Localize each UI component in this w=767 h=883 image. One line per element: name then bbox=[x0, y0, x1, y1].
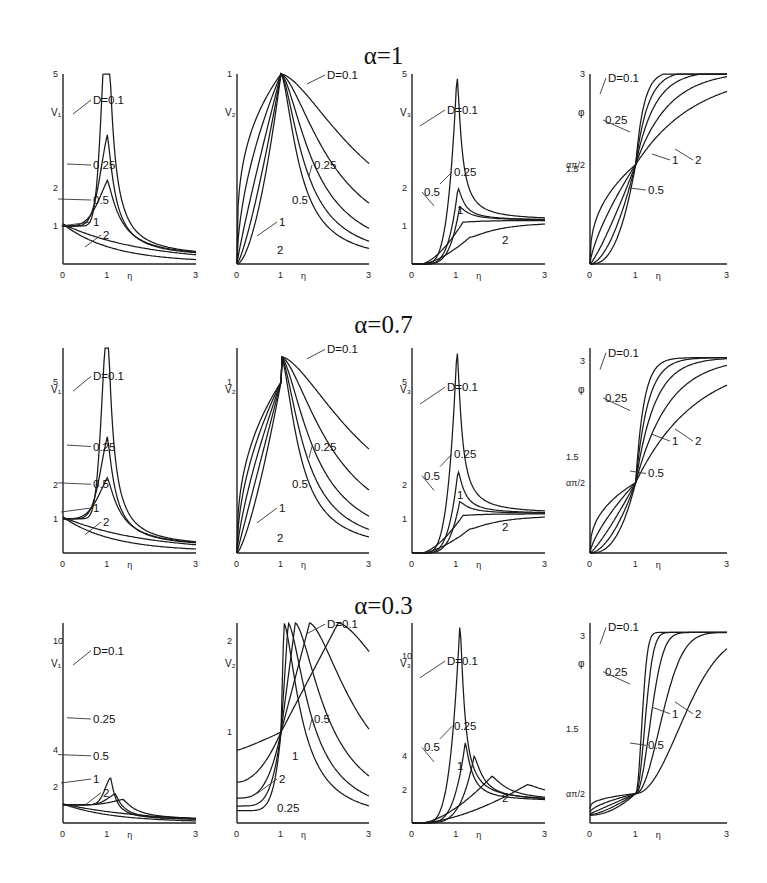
curve-annotation: 2 bbox=[502, 792, 508, 804]
annotation-leader bbox=[420, 387, 445, 404]
annotation-leader bbox=[309, 719, 312, 730]
curve-annotation: 0.5 bbox=[93, 194, 109, 206]
y-tick-label: απ/2 bbox=[566, 478, 585, 488]
curve-D-1 bbox=[590, 632, 727, 812]
x-tick-label: 3 bbox=[366, 270, 371, 280]
x-tick-label: 3 bbox=[542, 270, 547, 280]
curve-annotation: 0.25 bbox=[605, 114, 627, 126]
y-tick-label: 2 bbox=[402, 183, 407, 193]
y-axis-label: V₂ bbox=[225, 384, 236, 395]
curve-D-0.1 bbox=[412, 628, 545, 824]
y-axis-label: V₃ bbox=[400, 658, 411, 669]
y-tick-label: 2 bbox=[53, 183, 58, 193]
curve-D-0.5 bbox=[590, 359, 727, 553]
curve-annotation: 1 bbox=[292, 750, 298, 762]
y-tick-label: 3 bbox=[580, 69, 585, 79]
x-tick-label: 1 bbox=[278, 559, 283, 569]
x-tick-label: 1 bbox=[453, 559, 458, 569]
curve-annotation: 0.5 bbox=[93, 478, 109, 490]
y-tick-label: 3 bbox=[580, 356, 585, 366]
annotation-leader bbox=[440, 726, 452, 738]
curve-D-2 bbox=[412, 224, 545, 264]
curve-D-1 bbox=[590, 77, 727, 264]
x-axis-label: η bbox=[127, 271, 132, 281]
curve-annotation: 0.25 bbox=[605, 392, 627, 404]
annotation-leader bbox=[309, 447, 312, 459]
curve-D-1 bbox=[412, 221, 545, 265]
curve-annotation: D=0.1 bbox=[327, 343, 358, 355]
curve-D-0.1 bbox=[590, 74, 727, 264]
x-tick-label: 0 bbox=[409, 559, 414, 569]
x-tick-label: 3 bbox=[542, 829, 547, 839]
curve-annotation: D=0.1 bbox=[447, 381, 478, 393]
curve-D-0.5 bbox=[63, 180, 196, 252]
x-tick-label: 0 bbox=[60, 829, 65, 839]
curve-annotation: 1 bbox=[672, 154, 678, 166]
chart-panel-r2-c2: 013η1V₂210.50.25D=0.1 bbox=[211, 340, 383, 585]
y-tick-label: 4 bbox=[53, 745, 58, 755]
y-tick-label: 1 bbox=[53, 221, 58, 231]
curve-annotation: 1 bbox=[672, 435, 678, 447]
curve-D-1 bbox=[237, 623, 369, 782]
curve-D-0.1 bbox=[590, 358, 727, 553]
curve-annotation: 0.25 bbox=[93, 713, 115, 725]
x-tick-label: 1 bbox=[104, 559, 109, 569]
chart-panel-r1-c4: 013η1.5απ/23φD=0.10.250.512 bbox=[564, 66, 741, 296]
y-tick-label: 2 bbox=[53, 480, 58, 490]
x-tick-label: 0 bbox=[587, 829, 592, 839]
curve-annotation: 0.25 bbox=[314, 159, 336, 171]
x-tick-label: 1 bbox=[633, 829, 638, 839]
y-axis-label: V₁ bbox=[51, 107, 62, 118]
x-tick-label: 1 bbox=[453, 270, 458, 280]
y-tick-label: 2 bbox=[227, 636, 232, 646]
curve-D-1 bbox=[412, 514, 545, 553]
curve-D-0.25 bbox=[590, 74, 727, 264]
curve-annotation: 2 bbox=[695, 708, 701, 720]
y-tick-label: απ/2 bbox=[566, 789, 585, 799]
curve-D-0.5 bbox=[590, 74, 727, 264]
curve-annotation: 1 bbox=[457, 760, 463, 772]
y-tick-label: 3 bbox=[580, 631, 585, 641]
curve-D-1 bbox=[237, 357, 369, 553]
x-tick-label: 3 bbox=[724, 270, 729, 280]
annotation-leader bbox=[652, 154, 670, 160]
chart-panel-r2-c1: 013η125V₁D=0.10.250.512 bbox=[37, 340, 210, 585]
x-tick-label: 3 bbox=[193, 829, 198, 839]
chart-panel-r2-c3: 013η125V₃D=0.10.250.512 bbox=[386, 340, 559, 585]
x-axis-label: η bbox=[656, 560, 661, 570]
curve-annotation: 2 bbox=[277, 532, 283, 544]
curve-D-2 bbox=[412, 517, 545, 553]
x-tick-label: 0 bbox=[60, 270, 65, 280]
x-tick-label: 1 bbox=[633, 559, 638, 569]
curve-D-2 bbox=[63, 517, 196, 549]
curve-annotation: 2 bbox=[103, 229, 109, 241]
curve-D-0.5 bbox=[237, 74, 369, 264]
y-tick-label: 2 bbox=[402, 785, 407, 795]
x-tick-label: 1 bbox=[278, 270, 283, 280]
x-tick-label: 1 bbox=[104, 829, 109, 839]
y-tick-label: 1.5 bbox=[566, 724, 579, 734]
x-axis-label: η bbox=[127, 830, 132, 840]
x-tick-label: 1 bbox=[633, 270, 638, 280]
curve-annotation: 0.25 bbox=[314, 441, 336, 453]
curve-annotation: 0.25 bbox=[454, 448, 476, 460]
y-tick-label: 5 bbox=[402, 69, 407, 79]
curve-annotation: 0.5 bbox=[93, 750, 109, 762]
curve-D-0.5 bbox=[237, 357, 369, 553]
annotation-leader bbox=[257, 508, 277, 523]
annotation-leader bbox=[85, 235, 101, 247]
curve-D-0.25 bbox=[590, 632, 727, 814]
curve-D-0.1 bbox=[63, 348, 196, 542]
y-axis-label: φ bbox=[578, 384, 585, 395]
curve-D-1 bbox=[412, 776, 545, 823]
curve-annotation: 0.25 bbox=[454, 166, 476, 178]
curve-annotation: 0.5 bbox=[292, 194, 308, 206]
x-axis-label: η bbox=[476, 830, 481, 840]
curve-D-0.25 bbox=[590, 358, 727, 553]
y-tick-label: απ/2 bbox=[566, 160, 585, 170]
curve-annotation: 2 bbox=[502, 521, 508, 533]
chart-panel-r3-c4: 013ηαπ/21.53φD=0.10.250.512 bbox=[564, 615, 741, 855]
x-tick-label: 1 bbox=[453, 829, 458, 839]
curve-D-0.25 bbox=[63, 437, 196, 543]
y-tick-label: 2 bbox=[53, 782, 58, 792]
